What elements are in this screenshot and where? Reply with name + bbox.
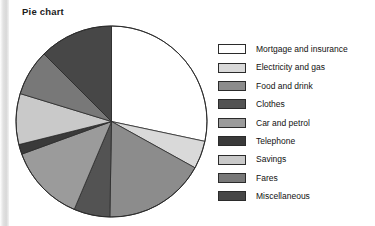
legend-swatch-icon bbox=[218, 136, 246, 146]
pie-slice-group bbox=[16, 26, 207, 217]
legend-swatch-icon bbox=[218, 191, 246, 201]
legend-swatch-icon bbox=[218, 155, 246, 165]
pie-chart-graphic bbox=[15, 25, 208, 218]
pie-chart-figure: Pie chart Mortgage and insuranceElectric… bbox=[0, 0, 375, 226]
legend-swatch-icon bbox=[218, 63, 246, 73]
legend-item: Food and drink bbox=[218, 77, 370, 95]
legend-item-label: Clothes bbox=[256, 100, 285, 109]
legend-swatch-icon bbox=[218, 44, 246, 54]
legend-item-label: Fares bbox=[256, 174, 278, 183]
pie-svg bbox=[15, 25, 208, 218]
legend-item: Fares bbox=[218, 169, 370, 187]
legend-item-label: Car and petrol bbox=[256, 119, 310, 128]
legend-item-label: Miscellaneous bbox=[256, 192, 310, 201]
legend-item-label: Electricity and gas bbox=[256, 63, 325, 72]
legend-swatch-icon bbox=[218, 99, 246, 109]
legend-item-label: Telephone bbox=[256, 137, 295, 146]
page-title: Pie chart bbox=[22, 6, 64, 17]
legend-item: Miscellaneous bbox=[218, 187, 370, 205]
chart-legend: Mortgage and insuranceElectricity and ga… bbox=[218, 40, 370, 206]
pie-slice bbox=[112, 26, 207, 141]
legend-item: Electricity and gas bbox=[218, 58, 370, 76]
legend-item-label: Food and drink bbox=[256, 82, 313, 91]
legend-swatch-icon bbox=[218, 173, 246, 183]
legend-swatch-icon bbox=[218, 118, 246, 128]
legend-item: Clothes bbox=[218, 95, 370, 113]
legend-item-label: Mortgage and insurance bbox=[256, 45, 348, 54]
legend-item: Car and petrol bbox=[218, 114, 370, 132]
legend-item: Savings bbox=[218, 150, 370, 168]
page-edge-shadow bbox=[0, 0, 9, 226]
legend-swatch-icon bbox=[218, 81, 246, 91]
legend-item: Mortgage and insurance bbox=[218, 40, 370, 58]
legend-item-label: Savings bbox=[256, 155, 286, 164]
legend-item: Telephone bbox=[218, 132, 370, 150]
